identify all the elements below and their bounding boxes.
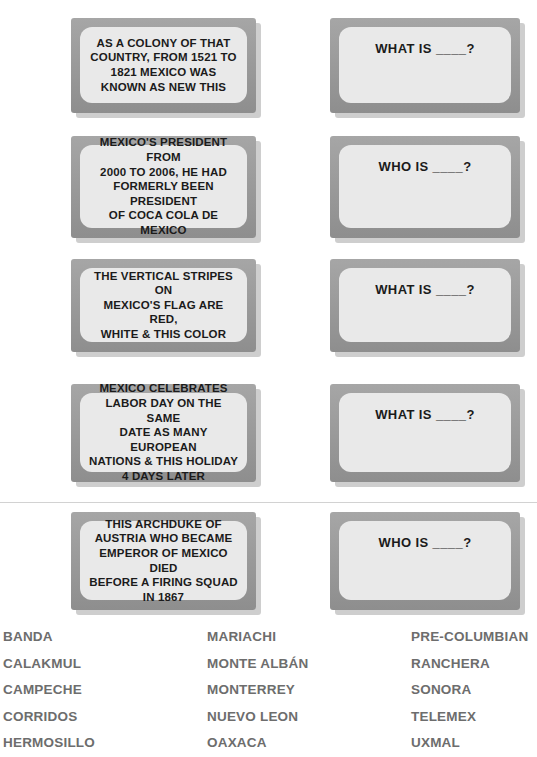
word-bank-item[interactable]: OAXACA	[207, 730, 411, 757]
word-bank-item[interactable]: MARIACHI	[207, 624, 411, 651]
answer-card-inner: WHAT IS ____?	[339, 27, 511, 103]
answer-card-inner: WHO IS ____?	[339, 145, 511, 228]
word-bank-item[interactable]: MONTE ALBÁN	[207, 651, 411, 678]
clue-card[interactable]: AS A COLONY OF THAT COUNTRY, FROM 1521 T…	[71, 18, 256, 113]
answer-prompt: WHO IS ____?	[379, 159, 472, 174]
worksheet-page: AS A COLONY OF THAT COUNTRY, FROM 1521 T…	[0, 0, 537, 757]
card-row: AS A COLONY OF THAT COUNTRY, FROM 1521 T…	[0, 18, 537, 113]
answer-card[interactable]: WHAT IS ____?	[330, 18, 520, 113]
answer-card[interactable]: WHO IS ____?	[330, 136, 520, 238]
clue-card[interactable]: MEXICO CELEBRATES LABOR DAY ON THE SAME …	[71, 384, 256, 482]
answer-card[interactable]: WHAT IS ____?	[330, 384, 520, 482]
word-bank: BANDA CALAKMUL CAMPECHE CORRIDOS HERMOSI…	[0, 624, 537, 757]
clue-text: THIS ARCHDUKE OF AUSTRIA WHO BECAME EMPE…	[80, 517, 247, 605]
card-row: MEXICO'S PRESIDENT FROM 2000 TO 2006, HE…	[0, 136, 537, 238]
card-row: THIS ARCHDUKE OF AUSTRIA WHO BECAME EMPE…	[0, 512, 537, 610]
card-row: MEXICO CELEBRATES LABOR DAY ON THE SAME …	[0, 384, 537, 482]
word-bank-item[interactable]: MONTERREY	[207, 677, 411, 704]
word-bank-column: BANDA CALAKMUL CAMPECHE CORRIDOS HERMOSI…	[0, 624, 207, 757]
answer-prompt: WHAT IS ____?	[375, 282, 475, 297]
word-bank-item[interactable]: SONORA	[411, 677, 537, 704]
clue-text: AS A COLONY OF THAT COUNTRY, FROM 1521 T…	[82, 36, 244, 94]
clue-card-inner: MEXICO CELEBRATES LABOR DAY ON THE SAME …	[80, 393, 247, 472]
word-bank-item[interactable]: BANDA	[3, 624, 207, 651]
word-bank-item[interactable]: TELEMEX	[411, 704, 537, 731]
clue-card-inner: THE VERTICAL STRIPES ON MEXICO'S FLAG AR…	[80, 268, 247, 342]
word-bank-item[interactable]: CALAKMUL	[3, 651, 207, 678]
answer-card-inner: WHAT IS ____?	[339, 393, 511, 472]
word-bank-item[interactable]: NUEVO LEON	[207, 704, 411, 731]
answer-card-inner: WHO IS ____?	[339, 521, 511, 600]
answer-prompt: WHO IS ____?	[379, 535, 472, 550]
clue-text: MEXICO'S PRESIDENT FROM 2000 TO 2006, HE…	[80, 135, 247, 237]
section-divider	[0, 502, 537, 503]
clue-card[interactable]: MEXICO'S PRESIDENT FROM 2000 TO 2006, HE…	[71, 136, 256, 238]
clue-card-inner: AS A COLONY OF THAT COUNTRY, FROM 1521 T…	[80, 27, 247, 103]
card-row: THE VERTICAL STRIPES ON MEXICO'S FLAG AR…	[0, 259, 537, 352]
word-bank-item[interactable]: PRE-COLUMBIAN	[411, 624, 537, 651]
clue-text: THE VERTICAL STRIPES ON MEXICO'S FLAG AR…	[80, 269, 247, 342]
answer-card[interactable]: WHO IS ____?	[330, 512, 520, 610]
answer-prompt: WHAT IS ____?	[375, 407, 475, 422]
clue-card[interactable]: THE VERTICAL STRIPES ON MEXICO'S FLAG AR…	[71, 259, 256, 352]
word-bank-item[interactable]: RANCHERA	[411, 651, 537, 678]
clue-card[interactable]: THIS ARCHDUKE OF AUSTRIA WHO BECAME EMPE…	[71, 512, 256, 610]
word-bank-column: PRE-COLUMBIAN RANCHERA SONORA TELEMEX UX…	[411, 624, 537, 757]
word-bank-item[interactable]: CAMPECHE	[3, 677, 207, 704]
word-bank-column: MARIACHI MONTE ALBÁN MONTERREY NUEVO LEO…	[207, 624, 411, 757]
word-bank-item[interactable]: CORRIDOS	[3, 704, 207, 731]
clue-text: MEXICO CELEBRATES LABOR DAY ON THE SAME …	[80, 381, 247, 483]
answer-card-inner: WHAT IS ____?	[339, 268, 511, 342]
answer-prompt: WHAT IS ____?	[375, 41, 475, 56]
clue-card-inner: MEXICO'S PRESIDENT FROM 2000 TO 2006, HE…	[80, 145, 247, 228]
clue-card-inner: THIS ARCHDUKE OF AUSTRIA WHO BECAME EMPE…	[80, 521, 247, 600]
answer-card[interactable]: WHAT IS ____?	[330, 259, 520, 352]
word-bank-item[interactable]: HERMOSILLO	[3, 730, 207, 757]
word-bank-item[interactable]: UXMAL	[411, 730, 537, 757]
